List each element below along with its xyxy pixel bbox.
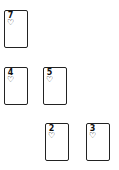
game-board: 7 ♡ 4 ♡ 5 ♡ 2 ♡ 3 ♡ xyxy=(0,0,119,170)
card-corner-index: 4 ♡ xyxy=(7,69,14,84)
card-3-hearts[interactable]: 3 ♡ xyxy=(86,123,110,161)
card-corner-index: 2 ♡ xyxy=(48,125,55,140)
card-4-hearts[interactable]: 4 ♡ xyxy=(4,67,28,105)
heart-suit-icon: ♡ xyxy=(7,76,14,84)
card-2-hearts[interactable]: 2 ♡ xyxy=(45,123,69,161)
heart-suit-icon: ♡ xyxy=(46,76,53,84)
card-corner-index: 5 ♡ xyxy=(46,69,53,84)
heart-suit-icon: ♡ xyxy=(89,132,96,140)
card-7-hearts[interactable]: 7 ♡ xyxy=(4,10,28,48)
heart-suit-icon: ♡ xyxy=(7,19,14,27)
card-corner-index: 3 ♡ xyxy=(89,125,96,140)
heart-suit-icon: ♡ xyxy=(48,132,55,140)
card-corner-index: 7 ♡ xyxy=(7,12,14,27)
card-5-hearts[interactable]: 5 ♡ xyxy=(43,67,67,105)
